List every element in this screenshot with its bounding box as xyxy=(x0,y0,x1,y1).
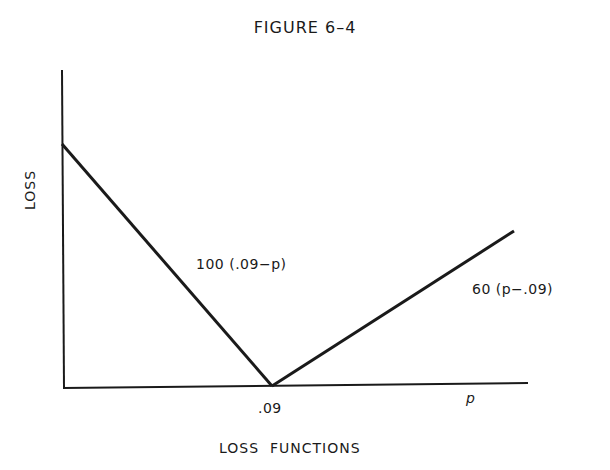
left-segment-label: 100 (.09−p) xyxy=(196,256,286,272)
figure-caption: LOSS FUNCTIONS xyxy=(219,440,361,456)
loss-chart xyxy=(0,0,610,470)
x-axis-label: p xyxy=(466,390,475,406)
right-loss-line xyxy=(272,231,514,386)
x-axis xyxy=(63,383,528,388)
y-axis-label: LOSS xyxy=(22,170,38,210)
x-tick-label: .09 xyxy=(258,400,282,416)
right-segment-label: 60 (p−.09) xyxy=(472,281,553,297)
y-axis xyxy=(62,70,64,388)
